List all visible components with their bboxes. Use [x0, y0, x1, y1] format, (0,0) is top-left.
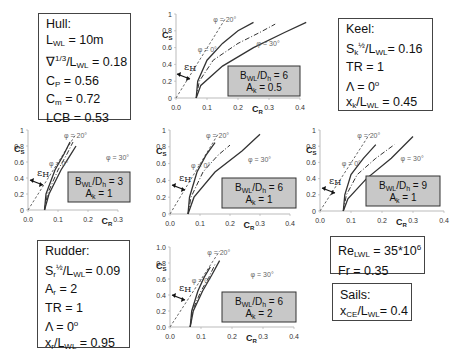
- chart-bottom-middle: 0.00.10.20.30.40.00.20.40.60.81.0CSCRφ =…: [156, 244, 299, 345]
- svg-text:φ = 30°: φ = 30°: [251, 271, 274, 279]
- svg-text:1.0: 1.0: [156, 244, 166, 251]
- svg-text:εH: εH: [184, 61, 196, 73]
- svg-text:0.4: 0.4: [156, 292, 166, 299]
- svg-text:0.2: 0.2: [306, 191, 316, 198]
- svg-text:0.4: 0.4: [285, 220, 295, 227]
- svg-text:0.4: 0.4: [156, 177, 166, 184]
- svg-text:φ = 0°: φ = 0°: [198, 46, 217, 54]
- svg-text:0.2: 0.2: [14, 191, 24, 198]
- svg-text:φ = 0°: φ = 0°: [49, 160, 68, 168]
- svg-text:0: 0: [20, 207, 24, 214]
- svg-text:εH: εH: [179, 282, 191, 294]
- svg-text:0.3: 0.3: [255, 220, 265, 227]
- svg-text:0.2: 0.2: [233, 104, 243, 111]
- svg-text:φ = 20°: φ = 20°: [64, 132, 87, 140]
- svg-text:0.1: 0.1: [53, 216, 63, 223]
- svg-text:0.3: 0.3: [408, 217, 418, 224]
- svg-text:0.4: 0.4: [439, 217, 449, 224]
- svg-text:0.3: 0.3: [113, 216, 123, 223]
- svg-text:0.2: 0.2: [377, 217, 387, 224]
- svg-text:φ = 0°: φ = 0°: [191, 162, 210, 170]
- svg-text:0.4: 0.4: [306, 175, 316, 182]
- svg-text:0.2: 0.2: [227, 333, 237, 340]
- chart-middle-right: 0.00.10.20.30.400.20.40.60.81CSCRφ = 0°φ…: [306, 127, 449, 229]
- svg-text:φ = 30°: φ = 30°: [106, 154, 129, 162]
- svg-text:1: 1: [168, 11, 172, 18]
- svg-text:0.6: 0.6: [14, 159, 24, 166]
- svg-text:0.6: 0.6: [162, 44, 172, 51]
- svg-text:0.0: 0.0: [156, 324, 166, 331]
- svg-text:0.0: 0.0: [315, 217, 325, 224]
- svg-text:CR: CR: [102, 216, 114, 227]
- chart-middle-left: 0.00.10.20.300.20.40.60.81CSCRφ = 0°φ = …: [14, 127, 130, 228]
- svg-text:CR: CR: [246, 333, 258, 344]
- svg-text:Ak = 1: Ak = 1: [85, 188, 113, 200]
- svg-text:φ = 0°: φ = 0°: [192, 277, 211, 285]
- svg-text:εH: εH: [179, 172, 191, 184]
- svg-text:0: 0: [168, 95, 172, 102]
- svg-text:0.2: 0.2: [156, 308, 166, 315]
- svg-text:CR: CR: [396, 217, 408, 228]
- svg-text:1: 1: [20, 127, 24, 134]
- svg-text:0.4: 0.4: [295, 104, 305, 111]
- svg-text:0.1: 0.1: [196, 333, 206, 340]
- svg-text:φ = 20°: φ = 20°: [357, 132, 380, 140]
- svg-text:0.4: 0.4: [289, 333, 299, 340]
- svg-text:0.1: 0.1: [195, 220, 205, 227]
- svg-text:0: 0: [162, 211, 166, 218]
- svg-text:0.2: 0.2: [225, 220, 235, 227]
- svg-text:0.2: 0.2: [156, 194, 166, 201]
- svg-text:0.2: 0.2: [83, 216, 93, 223]
- svg-text:φ = 20°: φ = 20°: [207, 249, 230, 257]
- svg-text:Ak = 1: Ak = 1: [389, 192, 417, 204]
- svg-text:1: 1: [312, 127, 316, 134]
- svg-text:0.2: 0.2: [162, 78, 172, 85]
- svg-text:0.6: 0.6: [156, 160, 166, 167]
- svg-text:0.4: 0.4: [162, 61, 172, 68]
- series-line: [190, 265, 215, 327]
- svg-text:0.4: 0.4: [14, 175, 24, 182]
- svg-text:0.0: 0.0: [171, 104, 181, 111]
- svg-text:0: 0: [312, 208, 316, 215]
- svg-text:0.0: 0.0: [165, 220, 175, 227]
- series-line: [190, 261, 219, 327]
- svg-text:φ = 20°: φ = 20°: [206, 132, 229, 140]
- svg-text:0.6: 0.6: [306, 159, 316, 166]
- svg-text:εH: εH: [329, 175, 341, 187]
- svg-text:0.1: 0.1: [202, 104, 212, 111]
- svg-text:CR: CR: [252, 104, 264, 115]
- svg-text:φ = 30°: φ = 30°: [248, 156, 271, 164]
- svg-text:εH: εH: [37, 167, 49, 179]
- svg-text:φ = 30°: φ = 30°: [401, 155, 424, 163]
- svg-text:Ak = 1: Ak = 1: [245, 194, 273, 206]
- svg-text:φ = 20°: φ = 20°: [213, 16, 236, 24]
- svg-text:Ak = 0.5: Ak = 0.5: [246, 82, 282, 94]
- svg-text:0.3: 0.3: [258, 333, 268, 340]
- svg-text:1: 1: [162, 127, 166, 134]
- svg-text:φ = 0°: φ = 0°: [342, 160, 361, 168]
- charts-canvas: 0.00.10.20.30.400.20.40.60.81CSCRφ = 0°φ…: [0, 0, 454, 360]
- svg-text:Ak = 2: Ak = 2: [245, 308, 273, 320]
- svg-text:0.6: 0.6: [156, 276, 166, 283]
- svg-text:0.3: 0.3: [264, 104, 274, 111]
- chart-top-middle: 0.00.10.20.30.400.20.40.60.81CSCRφ = 0°φ…: [162, 11, 306, 116]
- svg-text:0.0: 0.0: [165, 333, 175, 340]
- svg-text:φ = 30°: φ = 30°: [257, 40, 280, 48]
- chart-middle-center: 0.00.10.20.30.400.20.40.60.81CSCRφ = 0°φ…: [156, 127, 296, 232]
- svg-text:CR: CR: [244, 220, 256, 231]
- svg-text:0.0: 0.0: [23, 216, 33, 223]
- svg-text:0.1: 0.1: [346, 217, 356, 224]
